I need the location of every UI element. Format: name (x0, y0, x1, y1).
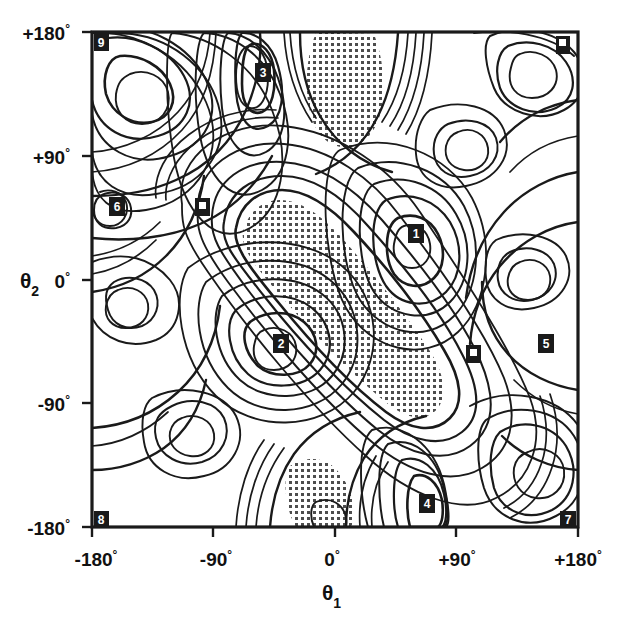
stipple-upper (307, 33, 384, 147)
svg-text:+90°: +90° (438, 548, 475, 570)
xtick-label-180m: -180 (75, 549, 113, 570)
degree-sign-y4: ° (65, 517, 70, 531)
degree-sign-x2: ° (335, 548, 340, 562)
x-axis-title-symbol: θ (322, 581, 333, 604)
minimum-label-7: 7 (565, 513, 572, 527)
minimum-label-1: 1 (413, 227, 420, 241)
plot-svg: +180° +90° 0° -90° -180° -180° -90° 0° +… (0, 0, 637, 629)
y-axis-title-symbol: θ (20, 269, 31, 292)
minimum-marker-9[interactable]: 9 (94, 33, 109, 51)
minimum-marker-unlabeled-b[interactable] (466, 345, 481, 363)
degree-sign-y1: ° (65, 146, 70, 160)
minimum-marker-8[interactable]: 8 (94, 511, 109, 527)
x-axis-title-subscript: 1 (333, 595, 341, 611)
svg-text:-180°: -180° (27, 517, 70, 539)
degree-sign-y0: ° (65, 22, 70, 36)
ytick-label-180m: -180 (27, 518, 65, 539)
minimum-label-9: 9 (98, 36, 105, 50)
y-axis-title-subscript: 2 (31, 283, 39, 299)
degree-sign-y3: ° (65, 393, 70, 407)
degree-sign-x0: ° (113, 548, 118, 562)
minimum-marker-2[interactable]: 2 (273, 334, 289, 353)
minimum-label-2: 2 (278, 337, 285, 351)
degree-sign-x4: ° (597, 548, 602, 562)
minimum-label-3: 3 (260, 66, 267, 80)
minimum-marker-6[interactable]: 6 (109, 197, 125, 216)
minimum-label-6: 6 (114, 200, 121, 214)
svg-text:-180°: -180° (75, 548, 118, 570)
degree-sign-y2: ° (65, 270, 70, 284)
minimum-marker-unlabeled-a[interactable] (195, 198, 210, 216)
minimum-marker-3[interactable]: 3 (255, 63, 271, 82)
svg-text:+180°: +180° (554, 548, 602, 570)
contour-plot-figure: +180° +90° 0° -90° -180° -180° -90° 0° +… (0, 0, 637, 629)
minimum-marker-4[interactable]: 4 (419, 494, 435, 513)
minimum-label-8: 8 (98, 513, 105, 527)
ytick-label-0: 0 (55, 271, 66, 292)
xtick-label-0: 0 (324, 549, 335, 570)
xtick-label-90p: +90 (438, 549, 470, 570)
ytick-label-90m: -90 (38, 394, 65, 415)
minimum-marker-7[interactable]: 7 (560, 511, 576, 527)
minimum-label-5: 5 (543, 337, 550, 351)
minimum-marker-unlabeled-c[interactable] (556, 36, 570, 54)
minimum-marker-5[interactable]: 5 (538, 334, 554, 353)
ytick-label-90p: +90 (33, 147, 65, 168)
degree-sign-x1: ° (227, 548, 232, 562)
minimum-marker-1[interactable]: 1 (408, 224, 424, 243)
minimum-label-4: 4 (424, 497, 431, 511)
ytick-label-180p: +180 (22, 23, 65, 44)
svg-text:+180°: +180° (22, 22, 70, 44)
xtick-label-90m: -90 (200, 549, 227, 570)
svg-text:+90°: +90° (33, 146, 70, 168)
degree-sign-x3: ° (471, 548, 476, 562)
xtick-label-180p: +180 (554, 549, 597, 570)
